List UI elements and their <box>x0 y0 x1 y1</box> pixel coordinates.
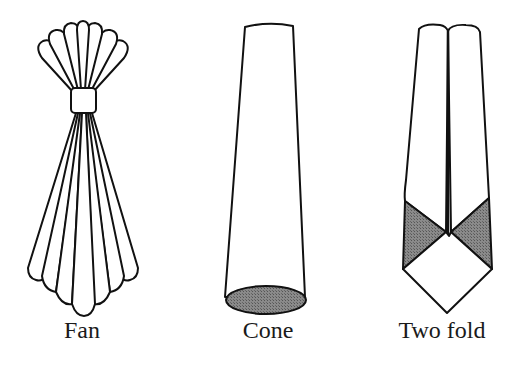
cone-body <box>225 24 305 297</box>
fan-top-petals <box>38 21 128 92</box>
fan-band <box>71 88 96 113</box>
cone-base <box>226 286 306 314</box>
napkin-fold-diagram <box>0 0 530 365</box>
label-cone: Cone <box>243 318 294 342</box>
two-fold-illustration <box>403 25 492 314</box>
cone-fold-illustration <box>225 24 306 314</box>
two-fold-right-panel <box>448 25 489 232</box>
fan-fold-illustration <box>28 21 138 316</box>
label-two-fold: Two fold <box>399 318 486 342</box>
label-fan: Fan <box>64 318 100 342</box>
two-fold-left-panel <box>405 25 448 233</box>
fan-bottom-pleats <box>28 113 138 316</box>
